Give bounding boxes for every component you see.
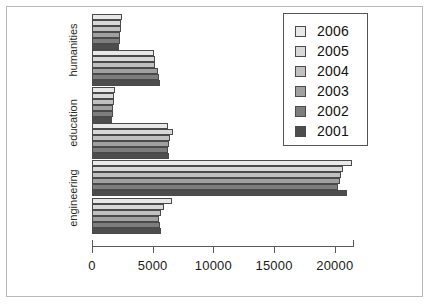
- legend-label-2005: 2005: [317, 44, 349, 58]
- y-axis-label-humanities: humanities: [67, 15, 79, 85]
- y-axis-label-engineering: engineering: [67, 163, 79, 233]
- legend-item-2001: 2001: [284, 121, 367, 141]
- legend-label-2006: 2006: [317, 24, 349, 38]
- legend-label-2004: 2004: [317, 64, 349, 78]
- x-axis-end-cap: [92, 240, 93, 247]
- x-axis-tick-label: 20000: [316, 258, 353, 273]
- legend-swatch-2003: [295, 86, 306, 97]
- legend-item-2006: 2006: [284, 21, 367, 41]
- legend-label-2002: 2002: [317, 104, 349, 118]
- x-axis-tick-label: 0: [88, 258, 95, 273]
- bar-2001: [92, 228, 161, 234]
- x-axis-tick: [274, 246, 275, 253]
- x-axis-tick: [335, 246, 336, 253]
- x-axis-line: [92, 246, 354, 247]
- x-axis-tick: [153, 246, 154, 253]
- x-axis-end-cap: [353, 240, 354, 247]
- legend-swatch-2001: [295, 126, 306, 137]
- legend-box: 200620052004200320022001: [283, 13, 368, 146]
- x-axis-tick: [213, 246, 214, 253]
- legend-label-2001: 2001: [317, 124, 349, 138]
- bar-2001: [92, 190, 347, 196]
- bar-chart-figure: 05000100001500020000 humanitieseducation…: [0, 0, 431, 305]
- x-axis-tick-label: 10000: [195, 258, 232, 273]
- legend-label-2003: 2003: [317, 84, 349, 98]
- x-axis-tick-label: 5000: [138, 258, 168, 273]
- legend-item-2003: 2003: [284, 81, 367, 101]
- x-axis-tick-label: 15000: [256, 258, 293, 273]
- legend-swatch-2005: [295, 46, 306, 57]
- legend-item-2005: 2005: [284, 41, 367, 61]
- bar-2001: [92, 153, 169, 159]
- legend-item-2002: 2002: [284, 101, 367, 121]
- y-axis-label-education: education: [67, 88, 79, 158]
- x-axis-tick: [92, 246, 93, 253]
- legend-swatch-2002: [295, 106, 306, 117]
- bar-group: [92, 160, 353, 196]
- legend-item-2004: 2004: [284, 61, 367, 81]
- bar-2001: [92, 80, 160, 86]
- legend-swatch-2006: [295, 26, 306, 37]
- legend-swatch-2004: [295, 66, 306, 77]
- bar-group: [92, 198, 353, 234]
